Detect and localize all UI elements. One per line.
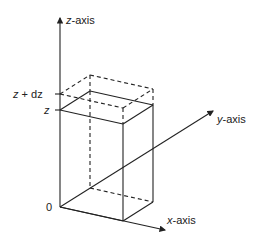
- y-axis-label: y-axis: [216, 113, 246, 125]
- origin-label: 0: [46, 201, 52, 213]
- z-axis-label: z-axis: [65, 14, 95, 26]
- dashed-slab: [60, 75, 153, 124]
- tick-label-z-plus-dz: z + dz: [12, 88, 43, 100]
- diagram-canvas: z-axis y-axis x-axis 0 z + dz z: [0, 0, 263, 241]
- x-axis-label: x-axis: [166, 214, 196, 226]
- solid-box: [60, 91, 153, 221]
- y-axis-line: [60, 111, 213, 207]
- tick-label-z: z: [43, 104, 50, 116]
